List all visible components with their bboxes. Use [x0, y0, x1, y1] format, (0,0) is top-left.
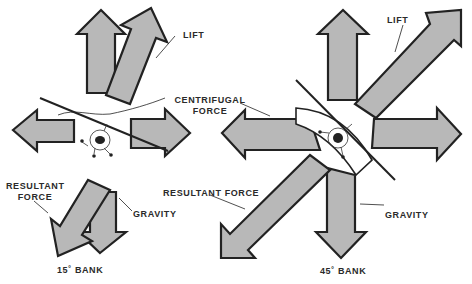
- lift-label-45: LIFT: [387, 15, 408, 25]
- caption-15-bank: 15˚ BANK: [57, 265, 103, 275]
- centrifugal-label-line2: FORCE: [170, 106, 250, 116]
- airplane-icon-15: [80, 124, 113, 158]
- lift-leader-45: [395, 25, 403, 52]
- gravity-leader-45: [360, 204, 384, 205]
- resultant-arrow-45: [221, 155, 330, 258]
- lift-label-15: LIFT: [183, 30, 204, 40]
- centrifugal-left-arrow-15: [13, 110, 74, 151]
- centrifugal-label-line1: CENTRIFUGAL: [170, 95, 250, 105]
- gravity-label-15: GRAVITY: [133, 209, 177, 219]
- centrifugal-leader-15: [58, 98, 165, 115]
- lift-vertical-arrow-45: [318, 10, 368, 100]
- resultant-label-15-line1: RESULTANT: [6, 181, 64, 191]
- gravity-label-45: GRAVITY: [385, 210, 429, 220]
- diagram-graphics: .arr { fill: #b8b8b8; stroke: #222; stro…: [0, 0, 472, 284]
- gravity-leader-15: [119, 198, 132, 211]
- resultant-label-45: RESULTANT FORCE: [163, 188, 259, 198]
- centrifugal-right-arrow-45: [372, 108, 461, 160]
- diagram-45-bank: [210, 10, 461, 258]
- resultant-leader-15: [34, 201, 48, 213]
- bank-force-diagram: .arr { fill: #b8b8b8; stroke: #222; stro…: [0, 0, 472, 284]
- caption-45-bank: 45˚ BANK: [320, 266, 366, 276]
- lift-diagonal-arrow-45: [355, 10, 461, 118]
- gravity-arrow-45: [316, 168, 366, 258]
- resultant-label-15-line2: FORCE: [6, 192, 64, 202]
